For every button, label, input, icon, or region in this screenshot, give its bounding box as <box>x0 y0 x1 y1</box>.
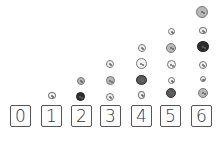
button-icon <box>106 60 114 68</box>
button-icon <box>197 41 209 52</box>
card-label: 2 <box>76 108 87 125</box>
button-icon <box>198 88 208 98</box>
number-card-6: 6 <box>191 105 212 127</box>
button-icon <box>166 88 176 98</box>
number-card-3: 3 <box>100 105 121 127</box>
button-icon <box>106 93 114 101</box>
button-icon <box>136 58 147 69</box>
button-icon <box>106 76 115 85</box>
button-icon <box>48 92 56 99</box>
button-icon <box>166 43 176 53</box>
number-card-1: 1 <box>41 105 62 127</box>
button-icon <box>196 6 208 18</box>
card-label: 1 <box>46 108 57 125</box>
card-label: 6 <box>196 108 207 125</box>
button-icon <box>138 44 146 52</box>
number-card-0: 0 <box>10 105 31 127</box>
card-label: 5 <box>165 108 176 125</box>
button-icon <box>199 61 207 69</box>
button-icon <box>167 60 176 69</box>
card-label: 4 <box>136 108 147 125</box>
button-icon <box>199 27 207 34</box>
number-card-4: 4 <box>131 105 152 127</box>
button-icon <box>76 92 85 101</box>
button-icon <box>136 75 147 85</box>
button-icon <box>168 28 175 35</box>
card-label: 0 <box>15 108 26 125</box>
button-icon <box>77 77 85 85</box>
button-icon <box>200 76 206 82</box>
button-icon <box>138 91 145 99</box>
card-label: 3 <box>105 108 116 125</box>
button-icon <box>168 77 175 84</box>
number-card-5: 5 <box>160 105 181 127</box>
number-card-2: 2 <box>71 105 92 127</box>
